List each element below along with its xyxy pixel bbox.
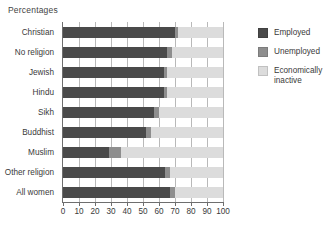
legend-swatch-unemployed-icon: [258, 47, 268, 57]
axis-tick-40: [127, 202, 128, 206]
axis-tick-label-30: 30: [106, 207, 115, 216]
axis-tick-70: [175, 202, 176, 206]
bar-segment-inact: [175, 187, 223, 198]
axis-tick-80: [191, 202, 192, 206]
bar-buddhist: [63, 127, 223, 138]
bar-segment-emp: [63, 187, 170, 198]
chart-legend: EmployedUnemployedEconomically inactive: [258, 28, 334, 94]
bar-hindu: [63, 87, 223, 98]
axis-tick-30: [111, 202, 112, 206]
legend-swatch-inactive-icon: [258, 66, 268, 76]
bar-segment-emp: [63, 87, 164, 98]
axis-tick-label-60: 60: [154, 207, 163, 216]
legend-item-inactive[interactable]: Economically inactive: [258, 66, 334, 85]
bar-no-religion: [63, 47, 223, 58]
legend-label-unemployed: Unemployed: [274, 47, 320, 57]
bar-segment-unemp: [109, 147, 120, 158]
axis-tick-20: [95, 202, 96, 206]
bar-segment-inact: [167, 67, 223, 78]
bar-segment-inact: [159, 107, 223, 118]
bar-segment-inact: [167, 87, 223, 98]
category-label-sikh: Sikh: [38, 108, 54, 118]
axis-tick-label-100: 100: [216, 207, 230, 216]
bar-segment-inact: [178, 27, 223, 38]
legend-label-employed: Employed: [274, 28, 310, 38]
category-axis-labels: ChristianNo religionJewishHinduSikhBuddh…: [0, 22, 58, 202]
axis-tick-label-40: 40: [122, 207, 131, 216]
bar-jewish: [63, 67, 223, 78]
axis-tick-label-0: 0: [61, 207, 66, 216]
plot-area: 0102030405060708090100: [62, 22, 223, 203]
bar-segment-emp: [63, 147, 109, 158]
bar-segment-emp: [63, 127, 146, 138]
axis-tick-100: [223, 202, 224, 206]
axis-tick-90: [207, 202, 208, 206]
axis-tick-label-90: 90: [202, 207, 211, 216]
bar-segment-emp: [63, 167, 165, 178]
axis-tick-10: [79, 202, 80, 206]
bar-other-religion: [63, 167, 223, 178]
category-label-no-religion: No religion: [15, 48, 54, 58]
axis-tick-50: [143, 202, 144, 206]
category-label-all-women: All women: [16, 188, 54, 198]
legend-item-unemployed[interactable]: Unemployed: [258, 47, 334, 57]
chart-title: Percentages: [8, 5, 58, 15]
bar-segment-inact: [172, 47, 223, 58]
axis-tick-0: [63, 202, 64, 206]
bar-segment-inact: [121, 147, 223, 158]
legend-item-employed[interactable]: Employed: [258, 28, 334, 38]
legend-label-inactive: Economically inactive: [274, 66, 334, 85]
bar-sikh: [63, 107, 223, 118]
axis-tick-60: [159, 202, 160, 206]
bar-all-women: [63, 187, 223, 198]
category-label-buddhist: Buddhist: [22, 128, 54, 138]
axis-tick-label-50: 50: [138, 207, 147, 216]
bar-segment-inact: [170, 167, 223, 178]
category-label-muslim: Muslim: [28, 148, 54, 158]
legend-swatch-employed-icon: [258, 28, 268, 38]
bar-christian: [63, 27, 223, 38]
category-label-hindu: Hindu: [33, 88, 54, 98]
bar-segment-emp: [63, 67, 164, 78]
axis-tick-label-70: 70: [170, 207, 179, 216]
category-label-christian: Christian: [22, 28, 54, 38]
bar-muslim: [63, 147, 223, 158]
axis-tick-label-80: 80: [186, 207, 195, 216]
axis-tick-label-10: 10: [74, 207, 83, 216]
stacked-bar-chart: Percentages ChristianNo religionJewishHi…: [0, 0, 336, 236]
gridline-100: [223, 22, 224, 202]
category-label-jewish: Jewish: [29, 68, 54, 78]
bar-segment-emp: [63, 27, 175, 38]
axis-tick-label-20: 20: [90, 207, 99, 216]
bar-segment-emp: [63, 47, 167, 58]
bar-segment-emp: [63, 107, 154, 118]
bar-segment-inact: [151, 127, 223, 138]
category-label-other-religion: Other religion: [5, 168, 54, 178]
